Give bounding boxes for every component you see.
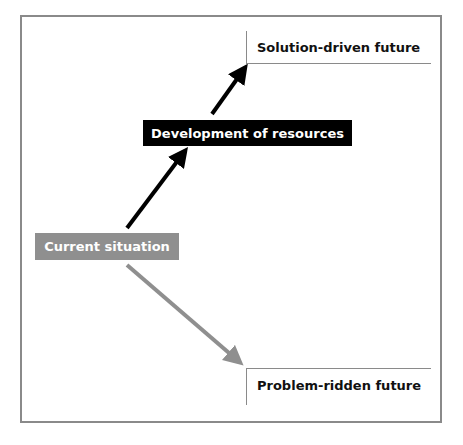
development-of-resources-node: Development of resources	[143, 120, 352, 146]
development-of-resources-label: Development of resources	[151, 126, 344, 141]
arrow-development-to-solution	[212, 72, 242, 114]
arrow-current-to-problem	[127, 265, 236, 359]
problem-ridden-future-label: Problem-ridden future	[257, 378, 421, 393]
solution-driven-future-label: Solution-driven future	[257, 40, 420, 55]
problem-ridden-future-node: Problem-ridden future	[246, 368, 431, 405]
solution-driven-future-node: Solution-driven future	[246, 31, 431, 64]
arrow-current-to-development	[127, 155, 182, 228]
current-situation-label: Current situation	[44, 239, 170, 254]
current-situation-node: Current situation	[35, 233, 179, 260]
